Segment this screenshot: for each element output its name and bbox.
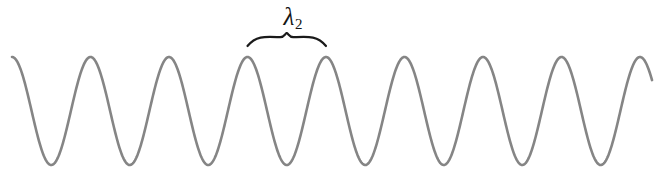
figure-background — [0, 0, 655, 179]
wave-figure-canvas — [0, 0, 655, 179]
wave-figure: λ2 — [0, 0, 655, 179]
